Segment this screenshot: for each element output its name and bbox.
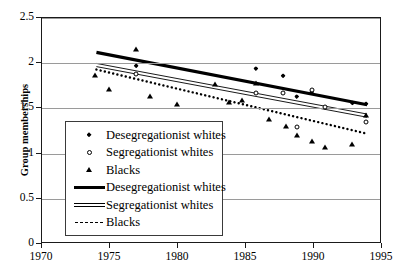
legend-label: Segregationist whites xyxy=(106,146,213,159)
legend-label: Desegregationist whites xyxy=(106,181,226,194)
data-point-filled-triangle xyxy=(363,112,369,117)
y-tick-label: 1 xyxy=(0,147,34,159)
figure: Group memberships 00.511.522.51970197519… xyxy=(0,0,396,268)
y-tick-label: 0.5 xyxy=(0,192,34,204)
x-tick-label: 1995 xyxy=(370,251,393,263)
data-point-filled-triangle xyxy=(106,87,112,92)
data-point-open-circle xyxy=(253,90,258,95)
legend-key-open-circle xyxy=(72,150,106,155)
legend-key-dotted-line xyxy=(72,221,106,224)
legend-item: Segregationist whites xyxy=(66,144,222,162)
x-tick-mark xyxy=(313,243,314,248)
x-tick-mark xyxy=(109,243,110,248)
x-tick-label: 1970 xyxy=(30,251,53,263)
data-point-filled-triangle xyxy=(283,124,289,129)
gridline xyxy=(42,63,380,64)
filled-diamond-icon xyxy=(87,132,92,137)
data-point-open-circle xyxy=(309,88,314,93)
y-tick-label: 2 xyxy=(0,56,34,68)
y-tick-mark xyxy=(36,107,41,108)
y-tick-label: 1.5 xyxy=(0,102,34,114)
double-thin-line-icon xyxy=(74,203,105,207)
data-point-filled-triangle xyxy=(349,141,355,146)
x-tick-mark xyxy=(381,243,382,248)
data-point-filled-triangle xyxy=(147,93,153,98)
legend-item: Blacks xyxy=(66,214,222,232)
data-point-open-circle xyxy=(364,119,369,124)
legend-label: Blacks xyxy=(106,216,140,229)
thick-solid-line-icon xyxy=(74,186,105,189)
y-tick-label: 2.5 xyxy=(0,11,34,23)
data-point-filled-triangle xyxy=(322,145,328,150)
legend-key-thick-solid-line xyxy=(72,186,106,189)
data-point-filled-triangle xyxy=(133,46,139,51)
x-tick-label: 1980 xyxy=(166,251,189,263)
data-point-filled-triangle xyxy=(266,117,272,122)
legend-label: Desegregationist whites xyxy=(106,129,226,142)
data-point-open-circle xyxy=(294,125,299,130)
data-point-filled-triangle xyxy=(294,133,300,138)
data-point-open-circle xyxy=(323,105,328,110)
y-tick-mark xyxy=(36,62,41,63)
y-tick-mark xyxy=(36,153,41,154)
data-point-filled-triangle xyxy=(92,72,98,77)
data-point-filled-triangle xyxy=(226,99,232,104)
y-tick-mark xyxy=(36,198,41,199)
y-axis-title: Group memberships xyxy=(19,55,30,205)
legend-item: Desegregationist whites xyxy=(66,126,222,144)
legend-label: Segregationist whites xyxy=(106,199,213,212)
x-tick-label: 1975 xyxy=(98,251,121,263)
x-tick-label: 1985 xyxy=(234,251,257,263)
legend-key-double-thin-line xyxy=(72,203,106,207)
filled-triangle-icon xyxy=(86,167,92,172)
data-point-filled-triangle xyxy=(253,80,259,85)
x-tick-mark xyxy=(245,243,246,248)
data-point-filled-triangle xyxy=(174,101,180,106)
x-tick-mark xyxy=(41,243,42,248)
x-tick-label: 1990 xyxy=(302,251,325,263)
legend-key-filled-triangle xyxy=(72,167,106,172)
legend-key-filled-diamond xyxy=(72,132,106,137)
data-point-filled-triangle xyxy=(239,98,245,103)
legend-item: Segregationist whites xyxy=(66,196,222,214)
trend-line xyxy=(96,52,367,104)
data-point-open-circle xyxy=(134,71,139,76)
gridline xyxy=(42,108,380,109)
data-point-filled-triangle xyxy=(309,138,315,143)
legend-label: Blacks xyxy=(106,164,140,177)
legend-item: Blacks xyxy=(66,161,222,179)
y-tick-mark xyxy=(36,17,41,18)
open-circle-icon xyxy=(87,150,92,155)
legend-item: Desegregationist whites xyxy=(66,179,222,197)
gridline xyxy=(42,18,380,19)
legend: Desegregationist whitesSegregationist wh… xyxy=(65,121,223,236)
y-tick-label: 0 xyxy=(0,237,34,249)
x-tick-mark xyxy=(177,243,178,248)
dotted-line-icon xyxy=(74,221,105,224)
data-point-filled-triangle xyxy=(212,81,218,86)
data-point-open-circle xyxy=(281,90,286,95)
